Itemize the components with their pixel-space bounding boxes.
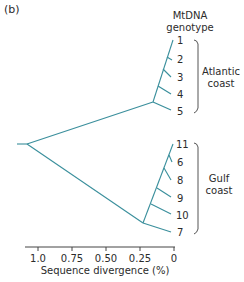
group-label-atlantic: Atlantic coast <box>201 66 241 90</box>
axis-tick-label: 0 <box>159 253 189 264</box>
atlantic-bracket <box>194 40 198 113</box>
leaf-label: 6 <box>177 157 183 168</box>
axis-tick-label: 0.75 <box>57 253 87 264</box>
axis-tick-label: 0.50 <box>91 253 121 264</box>
leaf-label: 11 <box>176 139 189 150</box>
x-axis <box>25 247 175 251</box>
group-brackets <box>194 40 198 234</box>
leaf-label: 2 <box>177 54 183 65</box>
leaf-label: 5 <box>177 106 183 117</box>
leaf-label: 9 <box>177 193 183 204</box>
leaf-label: 3 <box>177 72 183 83</box>
leaf-label: 4 <box>177 89 183 100</box>
axis-title: Sequence divergence (%) <box>30 265 180 276</box>
leaf-label: 1 <box>177 35 183 46</box>
group-label-gulf: Gulf coast <box>199 173 239 197</box>
phylogenetic-tree <box>0 0 244 282</box>
tree-branches <box>17 40 173 232</box>
axis-tick-label: 0.25 <box>125 253 155 264</box>
leaf-label: 8 <box>177 175 183 186</box>
axis-tick-label: 1.0 <box>23 253 53 264</box>
leaf-label: 7 <box>177 227 183 238</box>
leaf-label: 10 <box>176 210 189 221</box>
gulf-bracket <box>194 143 198 234</box>
